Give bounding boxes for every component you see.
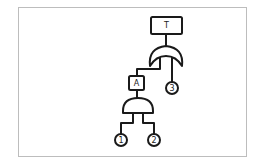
connector-and-1 (121, 113, 133, 134)
basic-event-1-label: 1 (118, 136, 123, 145)
intermediate-event-label: A (134, 79, 140, 88)
connector-and-2 (143, 113, 154, 134)
or-gate-icon (150, 46, 182, 66)
basic-event-2-label: 2 (151, 136, 156, 145)
and-gate-icon (123, 98, 153, 113)
top-event-label: T (163, 21, 169, 30)
fault-tree-diagram: T A 3 1 2 (0, 0, 263, 168)
basic-event-3-label: 3 (169, 84, 174, 93)
